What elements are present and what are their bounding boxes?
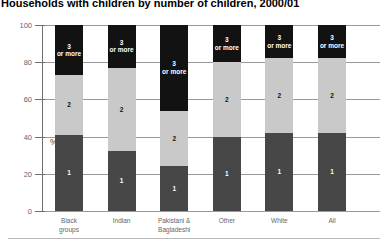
y-tick-mark xyxy=(35,99,45,100)
bar-segment-label: 3 or more xyxy=(57,43,81,58)
bar-segment: 3 or more xyxy=(265,25,293,58)
y-tick-label: 20 xyxy=(7,170,32,179)
bottom-rule xyxy=(8,238,380,239)
bar-segment-label: 1 xyxy=(67,169,71,177)
gridline xyxy=(43,211,380,212)
y-tick-label: 80 xyxy=(7,58,32,67)
bar-segment: 2 xyxy=(213,62,241,136)
bar-segment-label: 3 or more xyxy=(267,34,291,49)
y-tick-label: 60 xyxy=(7,95,32,104)
bar: 3 or more21 xyxy=(160,25,188,211)
bar-segment: 1 xyxy=(55,135,83,211)
bar-segment: 1 xyxy=(160,166,188,211)
bar-segment-label: 3 or more xyxy=(215,36,239,51)
bar: 3 or more21 xyxy=(213,25,241,211)
bar-segment-label: 2 xyxy=(67,101,71,109)
y-tick-mark xyxy=(35,25,45,26)
bar-segment: 3 or more xyxy=(160,25,188,111)
bar-segment: 3 or more xyxy=(213,25,241,62)
y-tick-label: 40 xyxy=(7,133,32,142)
y-tick-mark xyxy=(35,137,45,138)
bar-segment: 2 xyxy=(108,68,136,152)
y-tick-mark xyxy=(35,211,45,212)
y-axis-line xyxy=(42,25,43,212)
chart: Households with children by number of ch… xyxy=(0,0,385,245)
bar: 3 or more21 xyxy=(265,25,293,211)
bar-segment: 2 xyxy=(318,58,346,132)
bar-segment-label: 1 xyxy=(120,177,124,185)
bar-segment: 3 or more xyxy=(55,25,83,75)
y-tick-label: 0 xyxy=(7,207,32,216)
bar-segment: 3 or more xyxy=(318,25,346,58)
bar-segment-label: 1 xyxy=(278,168,282,176)
bar-segment-label: 2 xyxy=(330,92,334,100)
bar-segment-label: 1 xyxy=(172,185,176,193)
chart-title: Households with children by number of ch… xyxy=(1,0,299,9)
bar: 3 or more21 xyxy=(108,25,136,211)
y-tick-label: 100 xyxy=(7,21,32,30)
bar-segment: 2 xyxy=(55,75,83,135)
bar-segment: 1 xyxy=(265,133,293,211)
bar-segment-label: 3 or more xyxy=(320,34,344,49)
bar-segment-label: 2 xyxy=(172,135,176,143)
bar-segment-label: 3 or more xyxy=(162,60,186,75)
bar-segment-label: 1 xyxy=(330,168,334,176)
bar-segment-label: 2 xyxy=(278,92,282,100)
bar-segment-label: 2 xyxy=(120,106,124,114)
bar-segment: 1 xyxy=(108,151,136,211)
bar: 3 or more21 xyxy=(318,25,346,211)
plot-area: % 0204060801003 or more21Black groups3 o… xyxy=(43,25,380,211)
bar-segment-label: 3 or more xyxy=(109,39,133,54)
bar: 3 or more21 xyxy=(55,25,83,211)
bar-segment: 1 xyxy=(318,133,346,211)
bar-segment-label: 2 xyxy=(225,96,229,104)
bar-segment: 2 xyxy=(265,58,293,132)
bar-segment: 3 or more xyxy=(108,25,136,68)
y-tick-mark xyxy=(35,174,45,175)
y-tick-mark xyxy=(35,62,45,63)
bar-segment: 2 xyxy=(160,111,188,167)
x-category-label: All xyxy=(300,216,364,225)
bar-segment-label: 1 xyxy=(225,170,229,178)
bar-segment: 1 xyxy=(213,137,241,211)
